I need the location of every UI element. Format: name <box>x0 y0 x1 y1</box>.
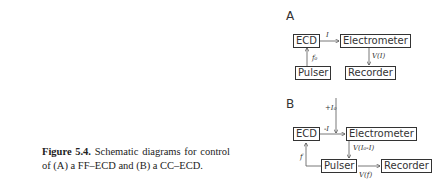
edge-label-reference-current-b: +I₀ <box>325 104 336 112</box>
electrometer-box-a: Electrometer <box>340 34 411 48</box>
pulser-box-a: Pulser <box>295 66 331 80</box>
pulser-box-b: Pulser <box>321 159 357 173</box>
recorder-box-b: Recorder <box>381 159 432 173</box>
recorder-box-a: Recorder <box>345 66 396 80</box>
ecd-box-a: ECD <box>293 34 320 48</box>
electrometer-box-b: Electrometer <box>346 127 417 141</box>
edge-label-error-voltage-b: V(I₀-I) <box>353 144 374 152</box>
panel-label-a: A <box>286 9 294 23</box>
ecd-box-b: ECD <box>293 127 320 141</box>
edge-label-frequency-b: f <box>300 153 303 161</box>
edge-label-voltage-b: V(f) <box>359 171 372 179</box>
diagram-wires <box>0 0 445 186</box>
edge-label-current-a: I <box>326 31 329 39</box>
edge-label-frequency-a: f₀ <box>312 54 317 62</box>
panel-label-b: B <box>286 97 294 111</box>
edge-label-voltage-a: V(I) <box>372 52 385 60</box>
edge-label-current-b: -I <box>324 125 329 133</box>
